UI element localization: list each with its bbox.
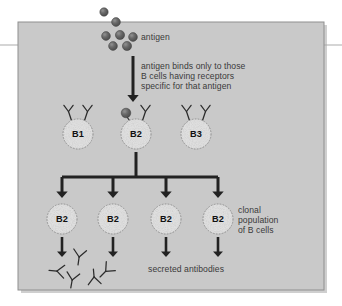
antigen-dot: [129, 33, 138, 42]
antigen-dot: [122, 41, 131, 50]
clone-cell-label: B2: [48, 214, 76, 224]
clonal-label-line-3: of B cells: [238, 225, 274, 235]
antigen-dot: [102, 32, 111, 41]
binding-note: antigen binds only to thoseB cells havin…: [141, 61, 245, 92]
binding-note-line-2: B cells having receptors: [141, 71, 234, 81]
b-cell-label-b1: B1: [64, 129, 92, 139]
secreted-antibodies-label: secreted antibodies: [148, 264, 224, 274]
clone-cell-label: B2: [99, 214, 127, 224]
antigen-dot: [109, 42, 118, 51]
clone-cell-label: B2: [204, 214, 232, 224]
antigen-dot: [115, 30, 124, 39]
binding-note-line-3: specific for that antigen: [141, 81, 231, 91]
binding-note-line-1: antigen binds only to those: [141, 61, 245, 71]
antigen-dot: [112, 18, 121, 27]
diagram-canvas: antigen antigen binds only to thoseB cel…: [0, 0, 342, 306]
clonal-label-line-1: clonal: [238, 205, 261, 215]
clonal-population-label: clonalpopulationof B cells: [238, 205, 278, 236]
diagram-svg: [0, 0, 342, 306]
clonal-label-line-2: population: [238, 215, 278, 225]
clone-cell-label: B2: [152, 214, 180, 224]
b-cell-label-b2: B2: [122, 129, 150, 139]
antigen-label: antigen: [141, 32, 170, 42]
antigen-dot: [100, 8, 108, 16]
b-cell-label-b3: B3: [182, 129, 210, 139]
